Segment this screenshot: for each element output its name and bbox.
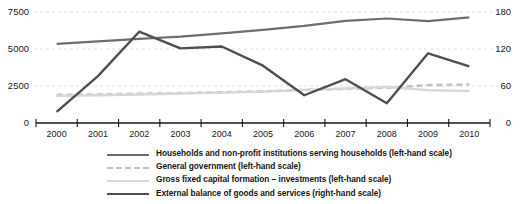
svg-text:2009: 2009 <box>418 129 438 139</box>
svg-text:180: 180 <box>495 6 511 17</box>
svg-text:2001: 2001 <box>88 129 108 139</box>
svg-text:60: 60 <box>500 80 511 91</box>
legend-item: Gross fixed capital formation – investme… <box>0 173 521 186</box>
legend-label-external-balance: External balance of goods and services (… <box>156 188 381 199</box>
legend-swatch-households <box>107 148 149 159</box>
svg-text:0: 0 <box>506 117 511 128</box>
svg-text:2006: 2006 <box>294 129 314 139</box>
x-axis-tick-labels: 2000200120022003200420052006200720082009… <box>47 129 480 139</box>
svg-text:2500: 2500 <box>8 80 29 91</box>
legend-item: Households and non-profit institutions s… <box>0 147 521 160</box>
plot-area: 0250050007500 060120180 2000200120022003… <box>0 0 521 145</box>
chart-svg: 0250050007500 060120180 2000200120022003… <box>0 0 521 145</box>
svg-text:2000: 2000 <box>47 129 67 139</box>
svg-text:2008: 2008 <box>377 129 397 139</box>
x-axis <box>36 119 490 127</box>
gridlines <box>34 12 507 86</box>
svg-text:120: 120 <box>495 43 511 54</box>
chart-figure: 0250050007500 060120180 2000200120022003… <box>0 0 521 204</box>
svg-text:5000: 5000 <box>8 43 29 54</box>
legend-item: External balance of goods and services (… <box>0 187 521 200</box>
legend-swatch-gfcf <box>107 174 149 185</box>
svg-text:2003: 2003 <box>170 129 190 139</box>
svg-text:2005: 2005 <box>253 129 273 139</box>
right-axis-tick-labels: 060120180 <box>495 6 511 128</box>
legend-label-general-government: General government (left-hand scale) <box>156 161 301 172</box>
chart-legend: Households and non-profit institutions s… <box>0 147 521 204</box>
svg-text:2007: 2007 <box>336 129 356 139</box>
legend-label-gfcf: Gross fixed capital formation – investme… <box>156 174 391 185</box>
series-lines <box>57 17 470 112</box>
svg-text:0: 0 <box>24 117 29 128</box>
legend-label-households: Households and non-profit institutions s… <box>156 148 452 159</box>
left-axis-tick-labels: 0250050007500 <box>8 6 29 128</box>
series-line-3 <box>57 32 470 112</box>
legend-item: General government (left-hand scale) <box>0 160 521 173</box>
svg-text:2010: 2010 <box>459 129 479 139</box>
series-line-0 <box>57 17 470 44</box>
legend-swatch-external-balance <box>107 188 149 199</box>
svg-text:7500: 7500 <box>8 6 29 17</box>
svg-text:2004: 2004 <box>212 129 232 139</box>
series-line-2 <box>57 87 470 96</box>
legend-swatch-general-government <box>107 161 149 172</box>
svg-text:2002: 2002 <box>129 129 149 139</box>
